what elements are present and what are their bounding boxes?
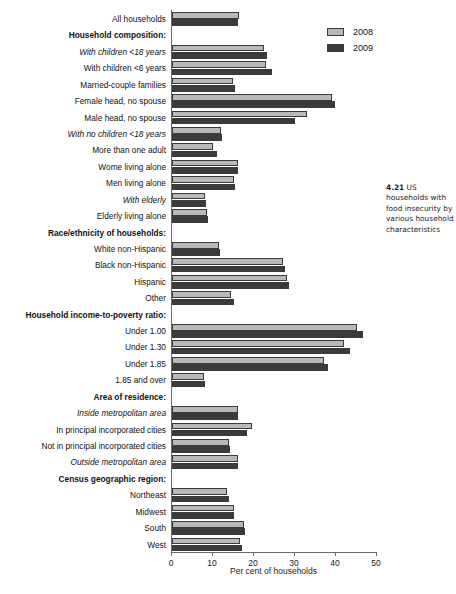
chart-row-label: Under 1.00 [0,326,166,336]
chart-row-label: Not in principal incorporated cities [0,441,166,451]
x-axis-tick [171,552,172,556]
legend-label-2009: 2009 [353,43,373,53]
chart-row-label: 1.85 and over [0,375,166,385]
chart-legend: 2008 2009 [327,24,373,56]
chart-row-label: Census geographic region: [0,474,166,484]
x-axis-line [171,552,376,553]
chart-row-label: Household income-to-poverty ratio: [0,310,166,320]
figure-caption: 4.21 US households with food insecurity … [386,183,454,235]
chart-row-label: Men living alone [0,178,166,188]
chart-row-label: Hispanic [0,277,166,287]
chart-row-label: Northeast [0,490,166,500]
x-axis-tick [253,552,254,556]
y-axis-line [171,10,172,552]
chart-row-label: Household composition: [0,30,166,40]
chart-row-label: With elderly [0,195,166,205]
x-axis-tick [212,552,213,556]
chart-row-label: Other [0,293,166,303]
chart-row-label: Outside metropolitan area [0,457,166,467]
chart-row-label: South [0,523,166,533]
chart-row-label: Wome living alone [0,162,166,172]
chart-row-label: White non-Hispanic [0,244,166,254]
chart-row-label: More than one adult [0,145,166,155]
legend-item-2009[interactable]: 2009 [327,40,373,56]
x-axis-title: Per cent of households [171,566,376,576]
chart-row-label: Under 1.85 [0,359,166,369]
plot-area [171,10,376,552]
legend-swatch-2009-icon [327,44,344,52]
figure-container: All householdsHousehold composition:With… [0,0,456,594]
chart-row-label: West [0,540,166,550]
chart-row-label: Female head, no spouse [0,96,166,106]
chart-row-label: With children <6 years [0,63,166,73]
x-axis-tick [335,552,336,556]
chart-row-label: All households [0,14,166,24]
figure-caption-number: 4.21 [386,183,404,192]
chart-row-label: Elderly living alone [0,211,166,221]
chart-row-label: Male head, no spouse [0,113,166,123]
chart-row-label: Under 1.30 [0,342,166,352]
chart-row-label: Black non-Hispanic [0,260,166,270]
legend-item-2008[interactable]: 2008 [327,24,373,40]
chart-row-label: Area of residence: [0,392,166,402]
chart-row-label: With no children <18 years [0,129,166,139]
chart-row-label: Married-couple families [0,80,166,90]
chart-row-label: Inside metropolitan area [0,408,166,418]
x-axis-tick [294,552,295,556]
chart-row-label: With children <18 years [0,47,166,57]
chart-row-label: Race/ethnicity of households: [0,228,166,238]
legend-swatch-2008-icon [327,28,344,36]
chart-row-label: Midwest [0,507,166,517]
x-axis-tick [376,552,377,556]
chart-row-label: In principal incorporated cities [0,425,166,435]
legend-label-2008: 2008 [353,27,373,37]
